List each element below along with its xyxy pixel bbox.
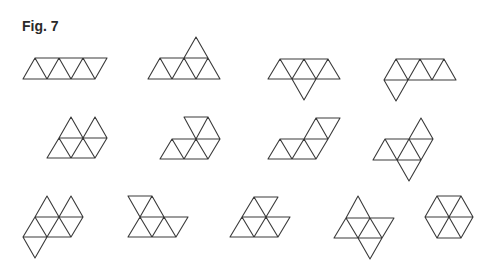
hexiamond-shape-11 [230,197,290,237]
hexiamond-shape-9 [23,196,83,258]
hexiamond-shape-5 [47,117,107,158]
hexiamond-shape-10 [128,196,188,237]
hexiamond-shape-1 [23,58,107,79]
hexiamond-shape-13 [425,196,473,238]
hexiamond-shape-3 [268,59,340,100]
hexiamond-shape-12 [334,196,394,259]
hexiamond-shape-7 [268,118,340,159]
hexiamond-diagram [0,0,490,272]
hexiamond-shape-6 [160,117,220,159]
hexiamond-shape-4 [384,59,456,101]
hexiamond-shape-2 [148,37,220,79]
hexiamond-shape-8 [373,118,433,181]
